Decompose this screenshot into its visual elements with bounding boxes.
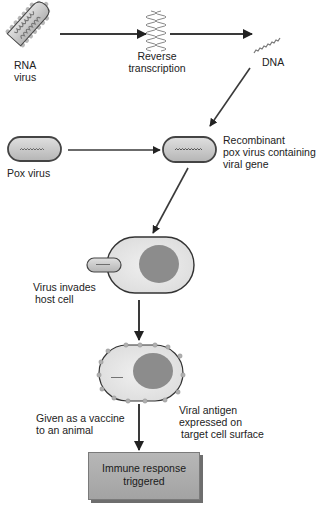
- arrow-recombinant-to-cell: [153, 168, 188, 233]
- pox-virus-icon: [8, 137, 61, 161]
- label-dna: DNA: [262, 56, 284, 68]
- arrow-dna-to-recombinant: [210, 68, 250, 126]
- antigen-cell-icon: [97, 343, 185, 403]
- rna-virus-icon: [5, 0, 57, 48]
- label-pox-virus: Pox virus: [7, 167, 50, 179]
- label-given-as-vaccine: Given as a vaccine to an animal: [36, 412, 125, 436]
- label-virus-invades: Virus invades host cell: [33, 281, 96, 305]
- label-reverse-transcription: Reverse transcription: [118, 50, 196, 74]
- label-viral-antigen: Viral antigen expressed on target cell s…: [179, 404, 264, 440]
- label-rna-virus: RNA virus: [14, 59, 36, 83]
- dna-icon: [254, 38, 280, 53]
- immune-response-label: Immune response triggered: [89, 462, 199, 488]
- recombinant-virus-icon: [163, 137, 216, 162]
- host-cell-icon: [87, 237, 194, 293]
- immune-response-box: Immune response triggered: [88, 452, 200, 500]
- label-recombinant: Recombinant pox virus containing viral g…: [223, 134, 316, 170]
- helix-icon: [146, 11, 166, 51]
